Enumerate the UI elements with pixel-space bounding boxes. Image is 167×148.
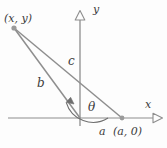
- segment-c: [14, 28, 122, 118]
- label-side-c: c: [68, 55, 75, 67]
- label-side-b: b: [37, 77, 45, 89]
- label-axis-x: x: [145, 99, 151, 110]
- label-point-a0: (a, 0): [113, 126, 142, 137]
- label-angle-theta: θ: [88, 101, 95, 113]
- segment-b: [14, 28, 80, 118]
- x-axis-arrowhead-icon: [153, 113, 163, 123]
- geometry-figure: (x, y) y x b c θ a (a, 0): [0, 0, 167, 148]
- point-marker-a0: [120, 116, 125, 121]
- label-axis-y: y: [93, 4, 99, 15]
- angle-theta-arrowhead-icon: [66, 97, 74, 104]
- label-point-xy: (x, y): [4, 13, 32, 24]
- label-segment-a: a: [99, 126, 106, 137]
- point-marker-xy: [11, 25, 16, 30]
- y-axis-arrowhead-icon: [75, 11, 85, 21]
